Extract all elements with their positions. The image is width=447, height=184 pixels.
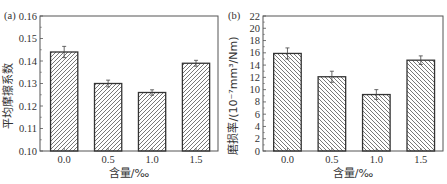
y-tick-label: 0.12 bbox=[19, 101, 37, 112]
bar bbox=[51, 52, 78, 151]
bar bbox=[138, 93, 165, 152]
chart-panel-a: 0.100.110.120.130.140.150.160.00.51.01.5… bbox=[1, 10, 218, 180]
y-tick-label: 16 bbox=[250, 47, 261, 58]
bar bbox=[318, 77, 346, 151]
y-tick-label: 4 bbox=[255, 121, 261, 132]
y-tick-label: 14 bbox=[250, 60, 261, 71]
bar bbox=[94, 84, 121, 152]
y-tick-label: 0.10 bbox=[19, 146, 37, 157]
y-tick-label: 2 bbox=[255, 133, 260, 144]
x-tick-label: 0.0 bbox=[58, 154, 71, 165]
bar bbox=[182, 63, 209, 151]
y-tick-label: 6 bbox=[255, 109, 260, 120]
y-tick-label: 0.15 bbox=[19, 33, 37, 44]
x-tick-label: 1.5 bbox=[414, 154, 427, 165]
y-tick-label: 0.16 bbox=[19, 11, 37, 22]
y-tick-label: 20 bbox=[250, 23, 261, 34]
bar bbox=[407, 60, 435, 151]
x-axis-title: 含量/‰ bbox=[109, 166, 150, 180]
y-tick-label: 18 bbox=[250, 35, 261, 46]
y-tick-label: 22 bbox=[250, 11, 261, 22]
x-tick-label: 1.0 bbox=[146, 154, 159, 165]
y-axis-title: 平均摩擦系数 bbox=[1, 63, 15, 129]
x-tick-label: 0.0 bbox=[281, 154, 294, 165]
panel-label: (b) bbox=[228, 10, 241, 22]
bar bbox=[274, 53, 302, 151]
y-tick-label: 0.13 bbox=[19, 78, 37, 89]
panel-label: (a) bbox=[4, 10, 16, 22]
y-tick-label: 12 bbox=[250, 72, 261, 83]
y-axis-title: 磨损率/(10⁻⁷mm³/Nm) bbox=[226, 37, 240, 155]
x-tick-label: 0.5 bbox=[102, 154, 115, 165]
y-tick-label: 0.14 bbox=[19, 56, 38, 67]
chart-panel-b: 02468101214161820220.00.51.01.5含量/‰磨损率/(… bbox=[226, 10, 443, 180]
x-tick-label: 0.5 bbox=[325, 154, 338, 165]
bar bbox=[363, 95, 391, 151]
x-tick-label: 1.5 bbox=[189, 154, 202, 165]
y-tick-label: 10 bbox=[250, 84, 261, 95]
y-tick-label: 0 bbox=[255, 146, 260, 157]
x-axis-title: 含量/‰ bbox=[333, 166, 374, 180]
x-tick-label: 1.0 bbox=[370, 154, 383, 165]
y-tick-label: 0.11 bbox=[19, 123, 37, 134]
bar-charts-figure: 0.100.110.120.130.140.150.160.00.51.01.5… bbox=[0, 0, 447, 184]
y-tick-label: 8 bbox=[255, 96, 260, 107]
